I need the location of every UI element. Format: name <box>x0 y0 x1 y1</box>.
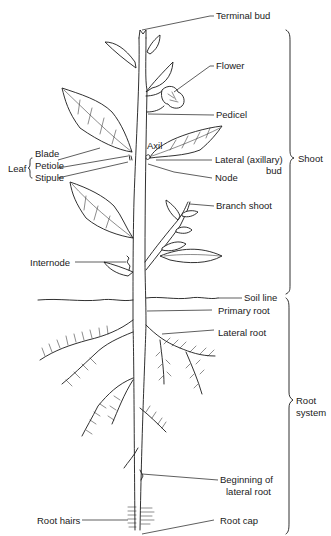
label-internode: Internode <box>30 257 70 268</box>
label-lateral-bud-2: bud <box>266 165 282 176</box>
label-beginning-lateral-root-2: lateral root <box>226 486 271 497</box>
terminal-bud <box>139 30 146 38</box>
stem <box>133 38 139 530</box>
label-root-hairs: Root hairs <box>37 515 80 526</box>
label-blade: Blade <box>35 148 59 159</box>
label-soil-line: Soil line <box>244 292 277 303</box>
label-lateral-bud-1: Lateral (axillary) <box>215 154 283 165</box>
leader-lines <box>58 16 242 534</box>
label-root-cap: Root cap <box>220 515 258 526</box>
root-hairs <box>128 507 154 527</box>
soil-line <box>38 297 218 300</box>
plant-illustration <box>0 0 331 536</box>
label-beginning-lateral-root-1: Beginning of <box>220 474 273 485</box>
label-axil: Axil <box>147 140 162 151</box>
group-label-root-system-1: Root <box>296 395 316 406</box>
label-node: Node <box>215 172 238 183</box>
leaf-brace <box>28 158 32 178</box>
label-branch-shoot: Branch shoot <box>216 200 272 211</box>
label-pedicel: Pedicel <box>216 109 247 120</box>
flower-icon <box>146 86 184 108</box>
root-system-brace <box>286 298 293 534</box>
label-terminal-bud: Terminal bud <box>216 10 270 21</box>
label-stipule: Stipule <box>35 172 64 183</box>
label-petiole: Petiole <box>35 160 64 171</box>
plant-diagram: Terminal bud Flower Pedicel Leaf Blade P… <box>0 0 331 536</box>
label-lateral-root: Lateral root <box>218 327 266 338</box>
group-label-shoot: Shoot <box>298 153 323 164</box>
label-leaf: Leaf <box>8 163 27 174</box>
label-primary-root: Primary root <box>218 305 270 316</box>
shoot-brace <box>286 30 294 294</box>
label-flower: Flower <box>216 60 245 71</box>
group-label-root-system-2: system <box>296 407 326 418</box>
leaf-blade <box>62 88 132 152</box>
